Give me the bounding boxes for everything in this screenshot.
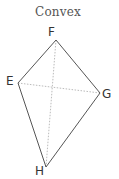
- vertex-label-h: H: [35, 164, 44, 178]
- diagonal-fh: [46, 40, 56, 167]
- vertex-label-g: G: [102, 87, 111, 101]
- vertex-label-f: F: [48, 25, 55, 39]
- quadrilateral-outline: [18, 40, 100, 167]
- vertex-label-e: E: [6, 74, 14, 88]
- quadrilateral-diagram: F E G H: [0, 0, 119, 179]
- diagonal-eg: [18, 83, 100, 93]
